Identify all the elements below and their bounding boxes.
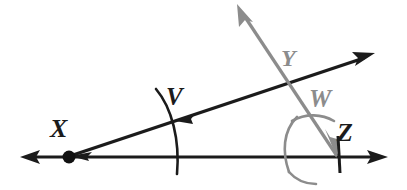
geometry-diagram: X V Y W Z [0, 0, 407, 190]
point-label-x: X [50, 116, 67, 142]
arc-z-large-path-lower [289, 172, 316, 184]
point-label-w: W [309, 86, 331, 111]
geometry-canvas [0, 0, 407, 190]
point-label-z: Z [337, 120, 353, 146]
black-ray-arrowhead [352, 52, 375, 66]
point-label-v: V [166, 84, 183, 109]
arc-z-large-path [285, 117, 297, 172]
point-label-y: Y [281, 46, 296, 70]
gray-ray-lower-tick [325, 129, 337, 158]
compass-arc-z [285, 117, 316, 184]
vertex-dot-x [63, 151, 76, 164]
